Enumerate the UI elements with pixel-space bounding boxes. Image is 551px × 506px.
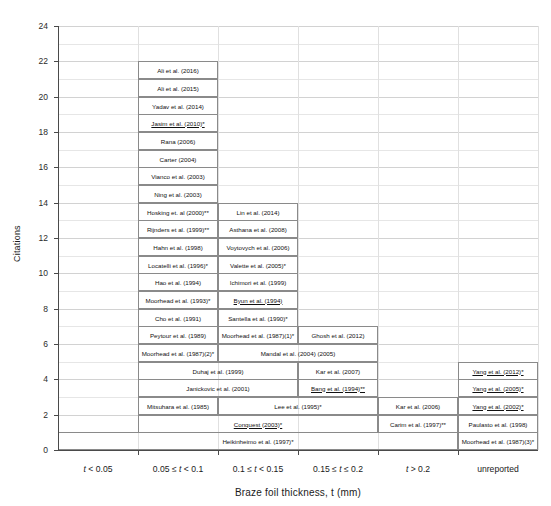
y-axis-line — [58, 26, 59, 450]
study-cell: Lin et al. (2014) — [218, 203, 298, 221]
study-cell: Bang et al. (1994)** — [298, 379, 378, 397]
y-tick-label: 10 — [26, 269, 48, 277]
study-cell: Cho et al. (1991) — [138, 309, 218, 327]
y-tick-label: 4 — [26, 375, 48, 383]
study-cell: Hahn et al. (1998) — [138, 238, 218, 256]
x-tick-mark — [378, 451, 379, 455]
y-tick-label: 24 — [26, 22, 48, 30]
study-cell: Peytour et al. (1989) — [138, 326, 218, 344]
study-cell: Mandal et al. (2004) (2005) — [218, 344, 378, 362]
x-tick-mark — [458, 451, 459, 455]
citation-distribution-chart: Citations Braze foil thickness, t (mm) 0… — [0, 0, 551, 506]
study-cell: Ning et al. (2003) — [138, 185, 218, 203]
study-cell: Moorhead et al. (1993)* — [138, 291, 218, 309]
study-cell: Ichimori et al. (1999) — [218, 273, 298, 291]
study-cell: Yang et al. (2005)* — [458, 379, 538, 397]
study-cell: Asthana et al. (2008) — [218, 220, 298, 238]
study-cell: Conquest (2003)* — [138, 415, 378, 433]
study-cell: Lee et al. (1995)* — [218, 397, 378, 415]
x-tick-label: unreported — [446, 464, 550, 474]
study-cell: Locatelli et al. (1996)* — [138, 256, 218, 274]
x-axis-label: Braze foil thickness, t (mm) — [58, 487, 538, 498]
study-cell: Kar et al. (2007) — [298, 362, 378, 380]
study-cell: Yang et al. (2012)* — [458, 362, 538, 380]
y-tick-label: 2 — [26, 411, 48, 419]
y-tick-label: 20 — [26, 93, 48, 101]
study-cell: Rana (2006) — [138, 132, 218, 150]
x-axis-line — [58, 450, 538, 451]
study-cell: Rijnders et al. (1999)** — [138, 220, 218, 238]
study-cell: Hosking et. al (2000)** — [138, 203, 218, 221]
study-cell: Carim et al. (1997)** — [378, 415, 458, 433]
study-cell: Hao et al. (1994) — [138, 273, 218, 291]
y-tick-label: 18 — [26, 128, 48, 136]
y-tick-label: 6 — [26, 340, 48, 348]
y-tick-label: 8 — [26, 305, 48, 313]
study-cell: Kar et al. (2006) — [378, 397, 458, 415]
gridline-vertical — [378, 26, 379, 450]
study-cell: Santella et al. (1990)* — [218, 309, 298, 327]
study-cell: Moorhead et al. (1987)(3)* — [458, 432, 538, 450]
study-cell: Carter (2004) — [138, 150, 218, 168]
study-cell: Valette et al. (2005)* — [218, 256, 298, 274]
study-cell: Vianco et al. (2003) — [138, 167, 218, 185]
study-cell: Ali et al. (2015) — [138, 79, 218, 97]
study-cell: Janickovic et al. (2001) — [138, 379, 298, 397]
gridline-vertical — [538, 26, 539, 450]
study-cell: Voytovych et al. (2006) — [218, 238, 298, 256]
study-cell: Moorhead et al. (1987)(1)* — [218, 326, 298, 344]
x-tick-mark — [298, 451, 299, 455]
y-tick-label: 22 — [26, 57, 48, 65]
x-tick-mark — [138, 451, 139, 455]
study-cell: Byun et al. (1994) — [218, 291, 298, 309]
study-cell: Moorhead et al. (1987)(2)* — [138, 344, 218, 362]
x-tick-mark — [218, 451, 219, 455]
y-tick-label: 0 — [26, 446, 48, 454]
study-cell: Paulasto et al. (1998) — [458, 415, 538, 433]
study-cell: Mitsuhara et al. (1985) — [138, 397, 218, 415]
study-cell: Yang et al. (2002)* — [458, 397, 538, 415]
study-cell: Heikinheimo et al. (1997)* — [58, 432, 458, 450]
study-cell: Ali et al. (2016) — [138, 61, 218, 79]
study-cell: Jasim et al. (2010)* — [138, 114, 218, 132]
study-cell: Ghosh et al. (2012) — [298, 326, 378, 344]
y-tick-label: 14 — [26, 199, 48, 207]
y-tick-label: 12 — [26, 234, 48, 242]
y-tick-label: 16 — [26, 163, 48, 171]
study-cell: Duhaj et al. (1999) — [138, 362, 298, 380]
study-cell: Yadav et al. (2014) — [138, 97, 218, 115]
y-axis-label: Citations — [12, 225, 22, 262]
